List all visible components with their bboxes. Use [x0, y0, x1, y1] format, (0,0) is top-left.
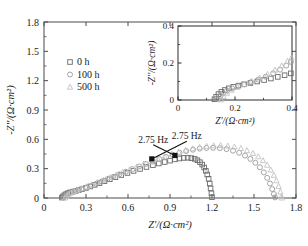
data-point-marker — [243, 153, 248, 158]
legend-label-500-h: 500 h — [77, 81, 100, 92]
annotation-label: 2.75 Hz — [172, 131, 202, 141]
x-axis-label: Z'/(Ω·cm²) — [148, 219, 192, 231]
data-point-marker — [260, 158, 265, 163]
data-point-marker — [218, 143, 223, 148]
data-point-marker — [168, 158, 173, 163]
data-point-marker — [207, 181, 212, 186]
annotation-label: 2.75 Hz — [138, 135, 168, 145]
x-tick-label: 0 — [42, 202, 47, 213]
annotation-endpoint-marker — [172, 153, 177, 158]
inset-x-axis-label: Z'/(Ω·cm²) — [215, 116, 254, 127]
data-point-marker — [276, 183, 281, 188]
annotation-endpoint-marker — [149, 156, 154, 161]
inset-x-tick-label: 0.2 — [229, 103, 240, 113]
chart-figure: 00.30.60.91.21.51.800.30.60.91.21.51.8Z'… — [0, 0, 308, 246]
data-point-marker — [253, 160, 258, 165]
data-point-marker — [244, 148, 249, 153]
x-tick-label: 0.6 — [122, 202, 135, 213]
y-tick-label: 0.6 — [27, 134, 40, 145]
series-500-h — [62, 143, 284, 200]
data-point-marker — [268, 167, 273, 172]
legend-marker-500-h — [67, 84, 72, 89]
y-tick-label: 0.3 — [27, 163, 40, 174]
y-tick-label: 1.8 — [27, 17, 40, 28]
y-tick-label: 1.5 — [27, 46, 40, 57]
inset-y-axis-label: -Z''/(Ω·cm²) — [147, 41, 158, 86]
nyquist-plot-svg: 00.30.60.91.21.51.800.30.60.91.21.51.8Z'… — [0, 0, 308, 246]
series-100-h — [61, 145, 277, 200]
x-tick-label: 1.2 — [206, 202, 219, 213]
inset-y-tick-label: 0 — [170, 95, 175, 105]
data-point-marker — [217, 146, 222, 151]
data-point-marker — [256, 154, 261, 159]
data-point-marker — [237, 150, 242, 155]
inset-x-tick-label: 0.4 — [286, 103, 298, 113]
series-0-h — [60, 155, 215, 199]
data-point-marker — [224, 147, 229, 152]
y-tick-label: 0 — [34, 193, 39, 204]
data-point-marker — [267, 181, 272, 186]
inset-y-tick-label: 0.4 — [163, 21, 175, 31]
inset-x-tick-label: 0 — [176, 103, 181, 113]
data-point-marker — [265, 175, 270, 180]
data-point-marker — [271, 192, 276, 197]
legend-marker-100-h — [68, 72, 73, 77]
x-tick-label: 1.5 — [248, 202, 261, 213]
data-point-marker — [162, 160, 167, 165]
data-point-marker — [248, 156, 253, 161]
x-tick-label: 1.8 — [290, 202, 303, 213]
legend-label-100-h: 100 h — [77, 69, 100, 80]
y-tick-label: 1.2 — [27, 75, 40, 86]
legend-label-0-h: 0 h — [77, 56, 90, 67]
data-point-marker — [278, 189, 283, 194]
data-point-marker — [271, 172, 276, 177]
data-point-marker — [208, 186, 213, 191]
data-point-marker — [274, 178, 279, 183]
y-tick-label: 0.9 — [27, 105, 40, 116]
x-tick-label: 0.3 — [80, 202, 93, 213]
data-point-marker — [250, 150, 255, 155]
data-point-marker — [238, 146, 243, 151]
legend-marker-0-h — [68, 60, 73, 65]
annotation-leader-line — [153, 145, 175, 156]
legend: 0 h100 h500 h — [67, 56, 99, 92]
data-point-marker — [270, 187, 275, 192]
inset-y-tick-label: 0.2 — [163, 58, 174, 68]
data-point-marker — [261, 170, 266, 175]
x-tick-label: 0.9 — [164, 202, 177, 213]
y-axis-label: -Z''/(Ω·cm²) — [5, 85, 17, 135]
data-point-marker — [257, 165, 262, 170]
